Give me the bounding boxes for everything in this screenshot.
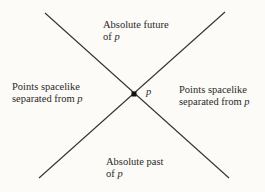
right-line1: Points spacelike (179, 84, 250, 96)
right-line2: separated from p (179, 96, 250, 108)
left-region-label: Points spacelike separated from p (12, 81, 83, 105)
event-label-p: p (146, 86, 151, 98)
event-point-p (132, 92, 137, 97)
past-region-label: Absolute past of p (106, 156, 163, 180)
past-line2: of p (106, 168, 163, 180)
future-region-label: Absolute future of p (103, 19, 169, 43)
left-line2: separated from p (12, 93, 83, 105)
past-line1: Absolute past (106, 156, 163, 168)
future-line1: Absolute future (103, 19, 169, 31)
left-line1: Points spacelike (12, 81, 83, 93)
right-region-label: Points spacelike separated from p (179, 84, 250, 108)
light-cone-diagram: Absolute future of p Points spacelike se… (0, 0, 265, 192)
future-line2: of p (103, 31, 169, 43)
